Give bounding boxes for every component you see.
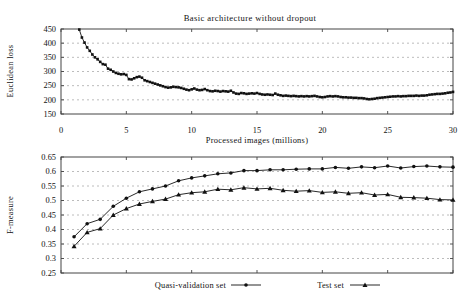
square-marker bbox=[122, 73, 125, 76]
x-tick-label: 0 bbox=[59, 126, 63, 135]
square-marker bbox=[224, 90, 227, 93]
square-marker bbox=[167, 86, 170, 89]
y-tick-label: 0.65 bbox=[41, 153, 56, 162]
square-marker bbox=[313, 95, 316, 98]
square-marker bbox=[449, 91, 452, 94]
square-marker bbox=[266, 93, 269, 96]
square-marker bbox=[350, 96, 353, 99]
series-circle bbox=[72, 164, 455, 238]
square-marker bbox=[371, 98, 374, 101]
x-tick-label: 20 bbox=[318, 126, 326, 135]
square-marker bbox=[452, 91, 455, 94]
legend-label: Test set bbox=[317, 281, 344, 290]
square-marker bbox=[112, 70, 115, 73]
y-tick-label: 200 bbox=[43, 96, 56, 105]
square-marker bbox=[190, 88, 193, 91]
square-marker bbox=[133, 77, 136, 80]
square-marker bbox=[243, 92, 246, 95]
square-marker bbox=[386, 96, 389, 99]
square-marker bbox=[248, 92, 251, 95]
circle-marker bbox=[216, 172, 220, 176]
square-marker bbox=[120, 73, 123, 76]
y-tick-label: 300 bbox=[43, 67, 56, 76]
circle-marker bbox=[98, 218, 102, 222]
square-marker bbox=[308, 95, 311, 98]
square-marker bbox=[426, 94, 429, 97]
circle-marker bbox=[177, 179, 181, 183]
square-marker bbox=[91, 53, 94, 56]
square-marker bbox=[117, 72, 120, 75]
square-marker bbox=[373, 97, 376, 100]
square-marker bbox=[303, 95, 306, 98]
circle-marker bbox=[373, 166, 377, 170]
square-marker bbox=[321, 96, 324, 99]
chart-title: Basic architecture without dropout bbox=[184, 13, 317, 23]
circle-marker bbox=[138, 190, 142, 194]
square-marker bbox=[185, 88, 188, 91]
circle-marker bbox=[268, 168, 272, 172]
circle-marker bbox=[347, 167, 351, 171]
circle-marker bbox=[242, 169, 246, 173]
x-tick-label: 5 bbox=[124, 126, 128, 135]
y-tick-label: 0.45 bbox=[41, 211, 56, 220]
square-marker bbox=[292, 95, 295, 98]
square-marker bbox=[431, 93, 434, 96]
square-marker bbox=[441, 92, 444, 95]
square-marker bbox=[83, 41, 86, 44]
y-tick-label: 150 bbox=[43, 110, 56, 119]
square-marker bbox=[284, 94, 287, 97]
square-marker bbox=[156, 83, 159, 86]
x-tick-label: 10 bbox=[187, 126, 195, 135]
square-marker bbox=[379, 97, 382, 100]
square-marker bbox=[240, 92, 243, 95]
x-tick-label: 30 bbox=[449, 126, 457, 135]
square-marker bbox=[88, 50, 91, 53]
square-marker bbox=[428, 93, 431, 96]
square-marker bbox=[99, 61, 102, 64]
square-marker bbox=[345, 96, 348, 99]
circle-marker bbox=[125, 196, 129, 200]
circle-marker bbox=[451, 165, 455, 169]
square-marker bbox=[94, 56, 97, 59]
x-axis-title: Processed images (millions) bbox=[206, 136, 309, 145]
circle-marker bbox=[151, 187, 155, 191]
y-tick-label: 350 bbox=[43, 53, 56, 62]
square-marker bbox=[365, 98, 368, 101]
square-marker bbox=[316, 95, 319, 98]
square-marker bbox=[355, 97, 358, 100]
circle-marker bbox=[307, 167, 311, 171]
square-marker bbox=[172, 86, 175, 89]
square-marker bbox=[347, 96, 350, 99]
square-marker bbox=[389, 95, 392, 98]
square-marker bbox=[407, 95, 410, 98]
square-marker bbox=[135, 76, 138, 79]
square-marker bbox=[339, 96, 342, 99]
y-axis-title: Euclidean loss bbox=[6, 45, 15, 98]
square-marker bbox=[329, 95, 332, 98]
y-tick-label: 400 bbox=[43, 39, 56, 48]
series-triangle bbox=[72, 185, 456, 248]
square-marker bbox=[78, 28, 81, 31]
square-marker bbox=[342, 96, 345, 99]
y-tick-label: 0.3 bbox=[46, 254, 56, 263]
square-marker bbox=[102, 63, 105, 66]
circle-marker bbox=[438, 165, 442, 169]
square-marker bbox=[446, 91, 449, 94]
square-marker bbox=[271, 94, 274, 97]
square-marker bbox=[180, 87, 183, 90]
series-square bbox=[78, 28, 454, 100]
circle-marker bbox=[72, 235, 76, 239]
circle-marker bbox=[281, 168, 285, 172]
square-marker bbox=[198, 89, 201, 92]
square-marker bbox=[104, 63, 107, 66]
circle-marker bbox=[255, 169, 259, 173]
series-line bbox=[74, 188, 453, 247]
square-marker bbox=[175, 86, 178, 89]
chart-0 bbox=[61, 28, 454, 114]
square-marker bbox=[279, 94, 282, 97]
circle-marker bbox=[294, 167, 298, 171]
square-marker bbox=[183, 87, 186, 90]
square-marker bbox=[227, 90, 230, 93]
circle-marker bbox=[111, 205, 115, 209]
square-marker bbox=[149, 81, 152, 84]
